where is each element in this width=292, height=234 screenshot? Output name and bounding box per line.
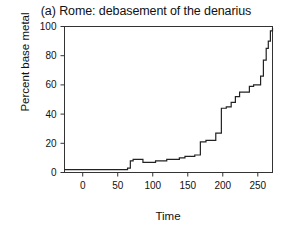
plot-area: 020406080100 050100150200250 [0,0,292,234]
x-tick-label: 200 [214,180,231,191]
x-tick-label: 50 [112,180,124,191]
y-tick-label: 60 [45,79,57,90]
y-axis-ticks: 020406080100 [40,21,65,178]
x-tick-label: 150 [179,180,196,191]
x-axis-ticks: 050100150200250 [80,173,267,191]
y-tick-label: 80 [45,50,57,61]
chart-figure: (a) Rome: debasement of the denarius Per… [0,0,292,234]
y-tick-label: 0 [51,167,57,178]
y-tick-label: 100 [40,21,57,32]
data-series-line [65,28,273,170]
y-tick-label: 20 [45,138,57,149]
x-tick-label: 100 [144,180,161,191]
x-tick-label: 250 [249,180,266,191]
plot-frame [65,27,273,173]
x-tick-label: 0 [80,180,86,191]
y-tick-label: 40 [45,109,57,120]
